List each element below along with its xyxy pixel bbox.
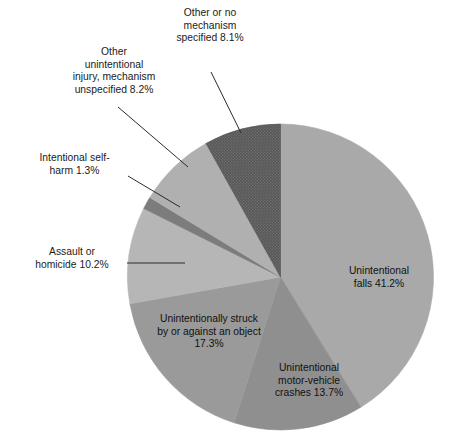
- pie-label-other-or-no-mechanism: Other or no mechanism specified 8.1%: [152, 7, 268, 45]
- pie-label-assault-or-homicide: Assault or homicide 10.2%: [8, 246, 136, 271]
- pie-label-other-unintentional-injury: Other unintentional injury, mechanism un…: [44, 46, 184, 96]
- pie-label-motor-vehicle-crashes: Unintentional motor-vehicle crashes 13.7…: [251, 362, 367, 400]
- pie-label-struck-by-object: Unintentionally struck by or against an …: [141, 313, 277, 351]
- pie-label-unintentional-falls: Unintentional falls 41.2%: [327, 265, 431, 290]
- pie-chart-figure: Other or no mechanism specified 8.1% Oth…: [0, 0, 449, 445]
- pie-label-intentional-self-harm: Intentional self- harm 1.3%: [12, 152, 137, 177]
- leader-line-other-no-mechanism: [211, 72, 241, 133]
